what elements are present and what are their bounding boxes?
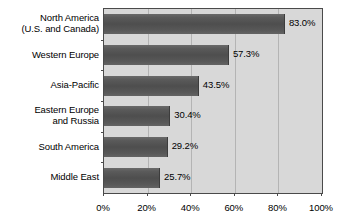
bar-value-label: 25.7% (164, 171, 190, 182)
category-tick (101, 40, 104, 41)
category-label-line: (U.S. and Canada) (0, 23, 99, 34)
category-label-line: Middle East (50, 171, 99, 182)
axis-tick-label: 60% (214, 202, 254, 213)
bar (104, 76, 199, 96)
bar-value-label: 83.0% (289, 17, 315, 28)
axis-tick-mark (103, 193, 104, 196)
category-label-line: Asia-Pacific (51, 79, 99, 90)
bar-value-label: 43.5% (203, 79, 229, 90)
category-label: Middle East (0, 171, 99, 182)
bar (104, 168, 160, 188)
category-label-line: and Russia (0, 115, 99, 126)
gridline (148, 9, 149, 193)
category-label: North America(U.S. and Canada) (0, 12, 99, 34)
axis-tick-label: 80% (257, 202, 297, 213)
axis-tick-mark (234, 193, 235, 196)
bar-track: 30.4% (104, 106, 322, 126)
bar-track: 83.0% (104, 14, 322, 34)
category-tick (101, 101, 104, 102)
category-label-line: South America (39, 141, 99, 152)
axis-tick-label: 40% (170, 202, 210, 213)
value-axis: 0%20%40%60%80%100% (103, 193, 322, 217)
category-label-line: Western Europe (32, 49, 99, 60)
axis-tick-label: 100% (301, 202, 338, 213)
plot-area: 83.0%57.3%43.5%30.4%29.2%25.7% (103, 8, 323, 194)
category-label: Asia-Pacific (0, 79, 99, 90)
bar (104, 14, 285, 34)
bar-value-label: 30.4% (174, 109, 200, 120)
bar (104, 137, 168, 157)
bar-track: 29.2% (104, 137, 322, 157)
axis-tick-mark (321, 193, 322, 196)
bar (104, 45, 229, 65)
axis-tick-label: 20% (127, 202, 167, 213)
category-axis: North America(U.S. and Canada)Western Eu… (0, 8, 99, 192)
category-tick (101, 162, 104, 163)
gridline (235, 9, 236, 193)
category-label: Eastern Europeand Russia (0, 104, 99, 126)
category-label: Western Europe (0, 49, 99, 60)
category-label-line: North America (40, 12, 99, 23)
gridline (191, 9, 192, 193)
bar-value-label: 29.2% (172, 140, 198, 151)
category-label-line: Eastern Europe (34, 104, 99, 115)
category-label: South America (0, 141, 99, 152)
category-tick (101, 132, 104, 133)
gridline (278, 9, 279, 193)
bar-track: 43.5% (104, 76, 322, 96)
axis-tick-mark (147, 193, 148, 196)
axis-tick-mark (277, 193, 278, 196)
bar-track: 57.3% (104, 45, 322, 65)
axis-tick-mark (190, 193, 191, 196)
bar-track: 25.7% (104, 168, 322, 188)
category-tick (101, 70, 104, 71)
bar (104, 106, 170, 126)
bar-value-label: 57.3% (233, 48, 259, 59)
axis-tick-label: 0% (83, 202, 123, 213)
